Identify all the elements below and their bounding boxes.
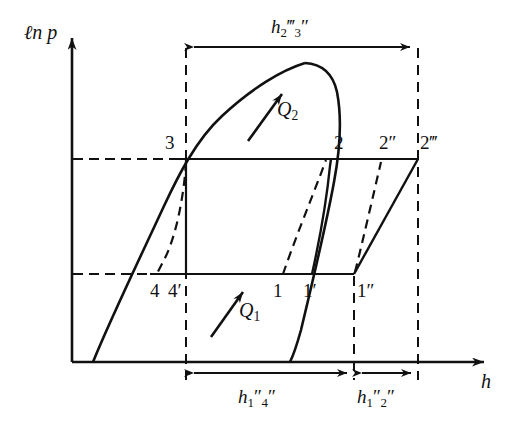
y-axis-label-text: ℓn p bbox=[24, 21, 57, 43]
dimension-label-br-base: h bbox=[357, 386, 367, 407]
dimension-label-top-prime1: ‴ bbox=[287, 16, 295, 37]
y-axis-label: ℓn p bbox=[24, 22, 57, 42]
dimension-label-bl-prime2: ″ bbox=[268, 386, 276, 407]
dimension-label-bottom-right: h1″2″ bbox=[357, 387, 395, 410]
ln-p-h-diagram: ℓn p h 3 2 2″ 2‴ 4 4′ 1 1′ 1″ Q2 Q1 h2‴3… bbox=[0, 0, 522, 431]
heat-label-Q1: Q1 bbox=[239, 300, 260, 323]
compression-1dp-2dp-dashed bbox=[355, 162, 381, 272]
state-point-3: 3 bbox=[165, 133, 175, 152]
state-point-1-double-prime: 1″ bbox=[357, 281, 374, 300]
state-point-2-triple-prime: 2‴ bbox=[420, 133, 437, 152]
dimension-label-bl-prime1: ″ bbox=[254, 386, 262, 407]
expansion-group bbox=[157, 159, 186, 274]
heat-label-Q2-subscript: 2 bbox=[291, 108, 298, 123]
state-point-1: 1 bbox=[273, 281, 283, 300]
dimension-label-bottom-left: h1″4″ bbox=[238, 387, 276, 410]
dimension-label-br-prime1: ″ bbox=[373, 386, 381, 407]
compression-1dp-2tp-solid bbox=[354, 159, 418, 274]
x-axis-label: h bbox=[481, 371, 491, 391]
expansion-3-4-dashed-curve bbox=[157, 162, 186, 274]
heat-label-Q1-subscript: 1 bbox=[253, 309, 260, 324]
state-point-2-double-prime: 2″ bbox=[379, 133, 396, 152]
saturation-dome bbox=[93, 63, 340, 362]
state-point-2: 2 bbox=[334, 133, 344, 152]
compression-outer-group bbox=[354, 159, 418, 274]
dimension-label-top-prime2: ″ bbox=[301, 16, 309, 37]
dimension-label-top: h2‴3″ bbox=[271, 17, 309, 40]
state-point-1-prime: 1′ bbox=[303, 281, 317, 300]
axis-group bbox=[72, 38, 484, 362]
heat-label-Q2-base: Q bbox=[277, 98, 291, 120]
heat-label-Q2: Q2 bbox=[277, 99, 298, 122]
construction-leaders bbox=[73, 159, 188, 274]
dimension-label-bl-base: h bbox=[238, 386, 248, 407]
heat-label-Q1-base: Q bbox=[239, 299, 253, 321]
dimension-label-br-prime2: ″ bbox=[387, 386, 395, 407]
state-point-4: 4 bbox=[150, 281, 160, 300]
compression-1-2-dashed bbox=[283, 160, 326, 274]
diagram-canvas bbox=[0, 0, 522, 431]
state-point-4-prime: 4′ bbox=[168, 281, 182, 300]
dimension-label-top-base: h bbox=[271, 16, 281, 37]
compression-inner-group bbox=[283, 159, 331, 274]
